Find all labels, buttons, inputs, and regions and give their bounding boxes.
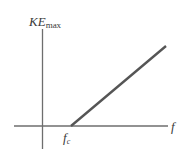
x-axis-label: f <box>171 119 177 134</box>
threshold-label-sub: c <box>67 137 71 146</box>
y-axis-label: KEmax <box>28 14 62 30</box>
y-axis-label-sub: max <box>46 20 62 30</box>
ke-vs-f-line <box>71 46 166 126</box>
diagram-canvas: KEmax fc f <box>0 0 188 160</box>
threshold-frequency-label: fc <box>63 130 71 146</box>
y-axis-label-main: KE <box>28 14 46 29</box>
